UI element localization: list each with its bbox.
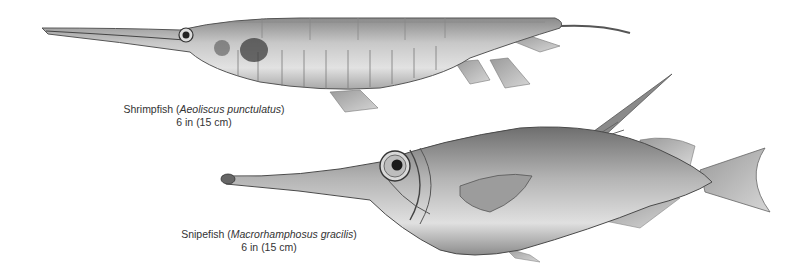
snipefish-caption: Snipefish (Macrorhamphosus gracilis) 6 i…: [164, 228, 374, 254]
snipefish-scientific-name: Macrorhamphosus gracilis: [231, 228, 354, 240]
shrimpfish-name-line: Shrimpfish (Aeoliscus punctulatus): [104, 103, 304, 116]
shrimpfish-scientific-name: Aeoliscus punctulatus: [179, 103, 281, 115]
shrimpfish-common-name: Shrimpfish (: [123, 103, 179, 115]
fish-drawings: [0, 0, 796, 280]
shrimpfish-caption-close: ): [281, 103, 285, 115]
snipefish-caption-close: ): [353, 228, 357, 240]
snipefish-common-name: Snipefish (: [181, 228, 231, 240]
shrimpfish-size: 6 in (15 cm): [104, 116, 304, 129]
fish-illustration-plate: Shrimpfish (Aeoliscus punctulatus) 6 in …: [0, 0, 796, 280]
shrimpfish-drawing: [42, 18, 630, 112]
shrimpfish-caption: Shrimpfish (Aeoliscus punctulatus) 6 in …: [104, 103, 304, 129]
snipefish-name-line: Snipefish (Macrorhamphosus gracilis): [164, 228, 374, 241]
snipefish-size: 6 in (15 cm): [164, 241, 374, 254]
